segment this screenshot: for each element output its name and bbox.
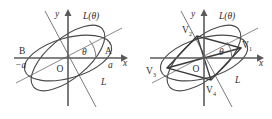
- left-point-a-tick: a: [108, 60, 113, 70]
- figure-root: y x O θ B −a A a L(θ) L: [0, 0, 272, 119]
- right-vertex-2-label: V: [182, 25, 189, 35]
- right-radius-v2: [197, 36, 204, 58]
- left-x-axis-label: x: [122, 58, 128, 68]
- right-vertex-2-label-group: V 2: [182, 25, 192, 37]
- left-panel: y x O θ B −a A a L(θ) L: [14, 9, 128, 107]
- right-vertex-2-subscript: 2: [189, 31, 192, 37]
- right-vertex-3-subscript: 3: [153, 72, 156, 78]
- right-origin-label: O: [193, 64, 200, 74]
- left-point-b-label: B: [19, 46, 25, 56]
- left-angle-label: θ: [82, 47, 87, 57]
- right-x-axis-label: x: [258, 58, 264, 68]
- right-vertex-4-label-group: V 4: [206, 85, 216, 97]
- right-vertex-3-label-group: V 3: [146, 66, 156, 78]
- right-y-axis-label: y: [190, 9, 196, 19]
- left-curve-original-label: L: [100, 77, 106, 87]
- left-y-axis-label: y: [54, 9, 60, 19]
- left-y-axis-arrow: [65, 9, 72, 16]
- right-curve-original-label: L: [234, 75, 240, 85]
- right-vertex-3-label: V: [146, 66, 153, 76]
- left-point-a-label: A: [105, 46, 112, 56]
- right-y-axis-arrow: [201, 9, 208, 16]
- left-point-b-tick: −a: [15, 60, 26, 70]
- right-vertex-4-subscript: 4: [213, 91, 216, 97]
- right-curve-rotated-label: L(θ): [218, 11, 235, 22]
- ellipse-diagram-svg: y x O θ B −a A a L(θ) L: [0, 0, 272, 119]
- right-vertex-1-label: V: [242, 40, 249, 50]
- right-vertex-4-label: V: [206, 85, 213, 95]
- left-origin-label: O: [57, 64, 64, 74]
- right-panel: y x O θ L(θ) L V 1 V 2 V 3 V 4: [146, 9, 264, 107]
- right-vertex-1-subscript: 1: [249, 46, 252, 52]
- right-angle-label: θ: [219, 47, 224, 57]
- left-curve-rotated-label: L(θ): [82, 11, 99, 22]
